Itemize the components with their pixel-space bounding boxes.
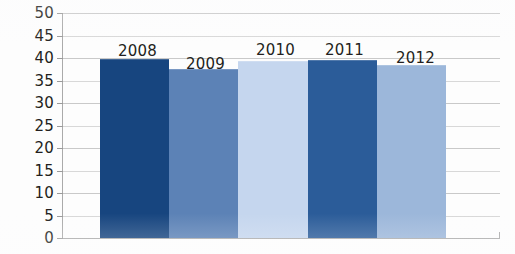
bar-rect-2009 (169, 69, 238, 238)
y-tick-label-30: 30 (14, 96, 54, 111)
y-tick-label-0: 0 (14, 231, 54, 246)
data-label-2010: 2010 (256, 43, 295, 58)
bar-rect-2010 (238, 61, 307, 238)
data-label-2012: 2012 (396, 51, 435, 66)
bar-2011[interactable] (308, 60, 377, 238)
y-tick-label-10: 10 (14, 186, 54, 201)
y-tick-label-15: 15 (14, 164, 54, 179)
x-axis-line (62, 238, 500, 239)
bar-2012[interactable] (377, 65, 446, 238)
y-tick-label-35: 35 (14, 74, 54, 89)
bar-rect-2008 (100, 59, 169, 238)
bar-2010[interactable] (238, 61, 307, 238)
y-tick-label-40: 40 (14, 51, 54, 66)
data-label-2009: 2009 (186, 57, 225, 72)
y-tick-label-45: 45 (14, 29, 54, 44)
bar-rect-2011 (308, 60, 377, 238)
y-tick-label-50: 50 (14, 6, 54, 21)
y-tick-label-20: 20 (14, 141, 54, 156)
bar-rect-2012 (377, 65, 446, 238)
data-label-2011: 2011 (325, 43, 364, 58)
y-tick-label-25: 25 (14, 119, 54, 134)
bar-2008[interactable] (100, 59, 169, 238)
bar-chart: 50 45 40 35 30 25 20 15 10 5 0 2008 2 (0, 0, 515, 254)
y-tick-label-5: 5 (14, 209, 54, 224)
y-tick-0 (57, 238, 63, 239)
bar-2009[interactable] (169, 69, 238, 238)
data-label-2008: 2008 (118, 44, 157, 59)
